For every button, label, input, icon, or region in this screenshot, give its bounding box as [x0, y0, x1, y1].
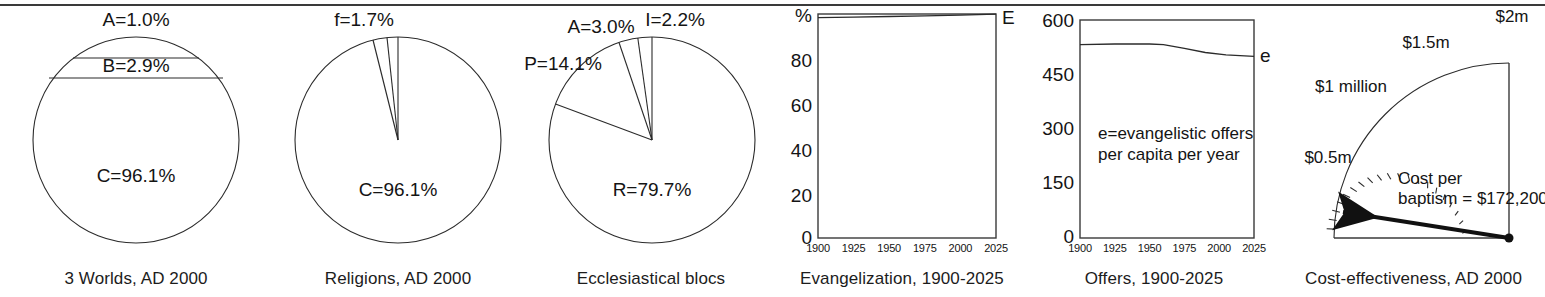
xtick-1900: 1900: [1068, 242, 1092, 254]
annotation-line-1: e=evangelistic offers: [1098, 124, 1253, 143]
needle-note-line-2: baptism = $172,200: [1398, 189, 1545, 208]
caption-religions: Religions, AD 2000: [272, 269, 524, 289]
xtick-2000: 2000: [949, 242, 973, 254]
xtick-2025: 2025: [984, 242, 1008, 254]
label-a: A=1.0%: [102, 9, 169, 30]
caption-three-worlds: 3 Worlds, AD 2000: [0, 269, 272, 289]
series-label-e: e: [1260, 45, 1271, 66]
gauge-pivot: [1505, 234, 1514, 243]
panel-evangelization: % 80 60 40 20 0 1900 1925 1950 1975 2000…: [778, 0, 1026, 297]
pie-radius-2: [373, 40, 398, 140]
xtick-1975: 1975: [913, 242, 937, 254]
label-p: P=14.1%: [524, 53, 602, 74]
label-c: C=96.1%: [97, 165, 176, 186]
gauge-label-1m: $1 million: [1315, 77, 1387, 96]
ytick-60: 60: [791, 95, 812, 116]
ytick-40: 40: [791, 140, 812, 161]
xtick-1975: 1975: [1173, 242, 1197, 254]
gauge-label-1-5m: $1.5m: [1402, 33, 1449, 52]
annotation-line-2: per capita per year: [1098, 145, 1240, 164]
label-r: R=79.7%: [613, 179, 692, 200]
xtick-1950: 1950: [1138, 242, 1162, 254]
chart-ecclesiastical-blocs: A=3.0% I=2.2% P=14.1% R=79.7%: [524, 0, 778, 262]
ytick-pct: %: [795, 5, 812, 26]
xtick-1950: 1950: [877, 242, 901, 254]
label-f: f=1.7%: [334, 9, 394, 30]
ytick-300: 300: [1042, 118, 1074, 139]
caption-evangelization: Evangelization, 1900-2025: [778, 269, 1026, 289]
panel-offers: 600 450 300 150 0 1900 1925 1950 1975 20…: [1026, 0, 1282, 297]
chart-offers: 600 450 300 150 0 1900 1925 1950 1975 20…: [1026, 0, 1282, 262]
plot-frame: [818, 14, 996, 238]
panel-religions: f=1.7% C=96.1% Religions, AD 2000: [272, 0, 524, 297]
gauge-label-0-5m: $0.5m: [1304, 148, 1351, 167]
chart-three-worlds: A=1.0% B=2.9% C=96.1%: [0, 0, 272, 262]
caption-cost-effectiveness: Cost-effectiveness, AD 2000: [1282, 269, 1545, 289]
series-label-E: E: [1002, 7, 1015, 28]
caption-offers: Offers, 1900-2025: [1026, 269, 1282, 289]
xtick-1925: 1925: [1103, 242, 1127, 254]
ytick-450: 450: [1042, 64, 1074, 85]
label-i: I=2.2%: [645, 9, 705, 30]
chart-religions: f=1.7% C=96.1%: [272, 0, 524, 262]
needle-note-line-1: Cost per: [1398, 169, 1463, 188]
xtick-2025: 2025: [1242, 242, 1266, 254]
ytick-20: 20: [791, 185, 812, 206]
xtick-1900: 1900: [806, 242, 830, 254]
panel-ecclesiastical-blocs: A=3.0% I=2.2% P=14.1% R=79.7% Ecclesiast…: [524, 0, 778, 297]
ytick-80: 80: [791, 50, 812, 71]
label-c: C=96.1%: [359, 179, 438, 200]
label-a: A=3.0%: [567, 16, 634, 37]
panel-three-worlds: A=1.0% B=2.9% C=96.1% 3 Worlds, AD 2000: [0, 0, 272, 297]
figure-sheet: A=1.0% B=2.9% C=96.1% 3 Worlds, AD 2000 …: [0, 0, 1545, 297]
gauge-label-2m: $2m: [1495, 7, 1528, 26]
caption-ecclesiastical-blocs: Ecclesiastical blocs: [524, 269, 778, 289]
xtick-2000: 2000: [1207, 242, 1231, 254]
pie-radius-i: [638, 38, 652, 140]
chart-cost-effectiveness: $0.5m $1 million $1.5m $2m Cost per bapt…: [1282, 0, 1545, 262]
label-b: B=2.9%: [102, 55, 169, 76]
pie-radius-a: [619, 43, 652, 141]
panel-cost-effectiveness: $0.5m $1 million $1.5m $2m Cost per bapt…: [1282, 0, 1545, 297]
ytick-600: 600: [1042, 10, 1074, 31]
chart-evangelization: % 80 60 40 20 0 1900 1925 1950 1975 2000…: [778, 0, 1026, 262]
gauge-needle: [1343, 212, 1509, 238]
ytick-150: 150: [1042, 172, 1074, 193]
xtick-1925: 1925: [842, 242, 866, 254]
series-line-E: [818, 14, 996, 17]
pie-radius-1: [387, 38, 398, 140]
series-line-e: [1080, 44, 1254, 56]
pie-radius-p: [556, 104, 653, 140]
